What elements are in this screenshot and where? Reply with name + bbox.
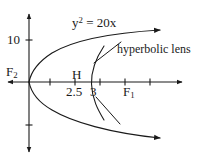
equation-rhs: = 20x: [83, 15, 116, 30]
x-axis-tick-label-3: 3: [90, 85, 97, 98]
hyperbolic-lens-annotation: hyperbolic lens: [117, 43, 191, 55]
y-axis-tick-label-10: 10: [7, 33, 20, 46]
axes-group: [8, 14, 182, 152]
point-h-label: H: [72, 68, 81, 81]
focus-f2-subscript: 2: [13, 70, 17, 80]
x-axis-tick-label-2-5: 2.5: [66, 85, 82, 98]
focus-f2-label: F2: [6, 65, 18, 80]
equation-label: y2 = 20x: [72, 16, 116, 29]
parabola-hyperbolic-lens-figure: y2 = 20x 10 hyperbolic lens F2 H 2.5 3 F…: [0, 0, 203, 162]
parabola-upper-branch: [29, 30, 160, 82]
focus-f1-label: F1: [123, 85, 135, 100]
leader-line-lower: [96, 97, 120, 124]
focus-f1-subscript: 1: [130, 90, 134, 100]
